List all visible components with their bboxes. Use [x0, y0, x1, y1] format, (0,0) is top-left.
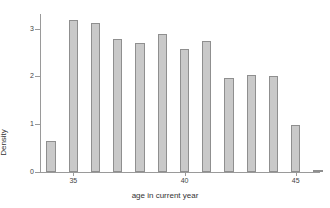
histogram-bar — [158, 34, 167, 172]
histogram-bar — [291, 125, 300, 172]
x-tick-label: 45 — [292, 177, 300, 184]
histogram-bar — [313, 170, 322, 172]
y-axis-title-wrap: Density — [6, 60, 20, 120]
histogram-bar — [91, 23, 100, 172]
y-tick-label: 1 — [24, 120, 34, 127]
y-axis-title: Density — [0, 129, 8, 156]
y-tick-label: 3 — [24, 25, 34, 32]
y-tick-label: 0 — [24, 168, 34, 175]
y-tick-mark — [35, 172, 40, 173]
x-tick-mark — [185, 172, 186, 176]
histogram-bar — [269, 76, 278, 172]
histogram-bar — [202, 41, 211, 172]
x-tick-mark — [296, 172, 297, 176]
histogram-bar — [135, 43, 144, 172]
x-tick-label: 35 — [69, 177, 77, 184]
histogram-bar — [180, 49, 189, 172]
x-tick-mark — [73, 172, 74, 176]
histogram-bar — [224, 78, 233, 172]
x-axis-line — [40, 172, 320, 173]
histogram-bar — [113, 39, 122, 172]
density-histogram-chart: 0123 354045 Density age in current year — [0, 0, 330, 208]
histogram-bar — [69, 20, 78, 172]
x-tick-label: 40 — [181, 177, 189, 184]
plot-area — [40, 12, 318, 172]
y-tick-label: 2 — [24, 72, 34, 79]
x-axis-title: age in current year — [0, 191, 330, 200]
histogram-bar — [247, 75, 256, 172]
histogram-bar — [46, 141, 55, 172]
